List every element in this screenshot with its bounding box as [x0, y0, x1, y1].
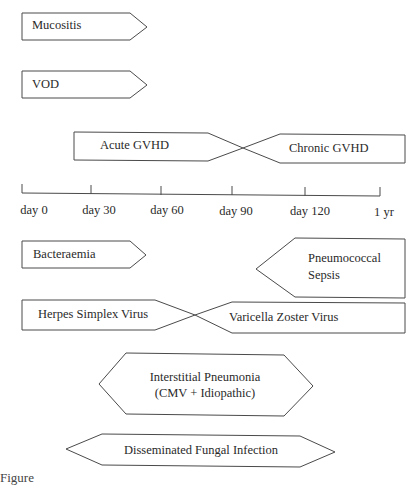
- interstitial-label-line2: (CMV + Idiopathic): [126, 386, 284, 401]
- acute-gvhd-label: Acute GVHD: [100, 138, 169, 153]
- varicella-zoster-label: Varicella Zoster Virus: [229, 310, 338, 325]
- vod-label: VOD: [32, 77, 59, 92]
- chronic-gvhd-label: Chronic GVHD: [289, 141, 369, 156]
- tick-label-day0: day 0: [20, 203, 47, 218]
- tick-label-day60: day 60: [150, 203, 184, 218]
- figure-caption-fragment: Figure: [0, 470, 34, 486]
- time-axis: [22, 184, 380, 196]
- tick-label-day90: day 90: [219, 204, 253, 219]
- tick-label-1yr: 1 yr: [374, 205, 394, 220]
- pneumococcal-label-line2: Sepsis: [308, 268, 340, 283]
- interstitial-label-line1: Interstitial Pneumonia: [126, 370, 284, 385]
- pneumococcal-label-line1: Pneumococcal: [308, 251, 381, 266]
- mucositis-label: Mucositis: [32, 18, 81, 33]
- tick-label-day120: day 120: [290, 204, 330, 219]
- herpes-simplex-label: Herpes Simplex Virus: [38, 307, 148, 322]
- bacteraemia-label: Bacteraemia: [33, 247, 95, 262]
- tick-label-day30: day 30: [82, 203, 116, 218]
- disseminated-fungal-label: Disseminated Fungal Infection: [102, 443, 300, 458]
